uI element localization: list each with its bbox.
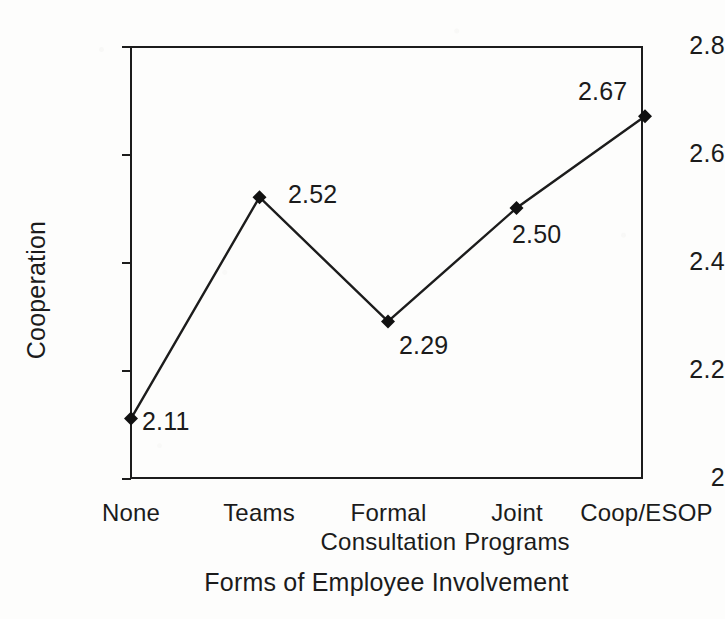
data-label-joint: 2.50 [512,222,561,247]
x-axis-title: Forms of Employee Involvement [130,568,643,596]
data-label-coop-esop: 2.67 [578,79,627,104]
series-line [131,116,645,418]
x-category-label-teams: Teams [189,498,329,527]
x-category-label-none: None [61,498,201,527]
y-axis-title: Cooperation [23,180,49,400]
data-label-teams: 2.52 [288,182,337,207]
x-category-label-joint: Joint Programs [447,498,587,556]
x-category-label-formal: Formal Consultation [311,498,466,556]
series-markers [124,109,652,425]
x-category-label-coop-esop: Coop/ESOP [568,498,725,527]
chart-figure: 2.8 2.6 2.4 2.2 2 2.11 2.52 2.29 2.50 2.… [0,0,725,619]
data-label-formal: 2.29 [399,333,448,358]
data-point-marker-none[interactable] [124,412,138,426]
data-label-none: 2.11 [142,409,190,434]
